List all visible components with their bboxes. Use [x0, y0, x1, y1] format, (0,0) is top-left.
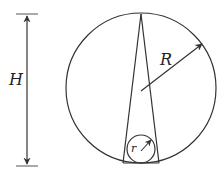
diagram-canvas: H R r: [0, 0, 224, 177]
height-dimension: H: [8, 14, 38, 166]
small-radius-label: r: [131, 142, 137, 155]
cone-left-edge: [123, 14, 141, 163]
outer-circle: [66, 13, 216, 163]
height-label: H: [8, 70, 24, 89]
big-radius-label: R: [159, 50, 172, 69]
cone-triangle: [123, 14, 159, 163]
small-radius-arrow: [141, 140, 151, 151]
